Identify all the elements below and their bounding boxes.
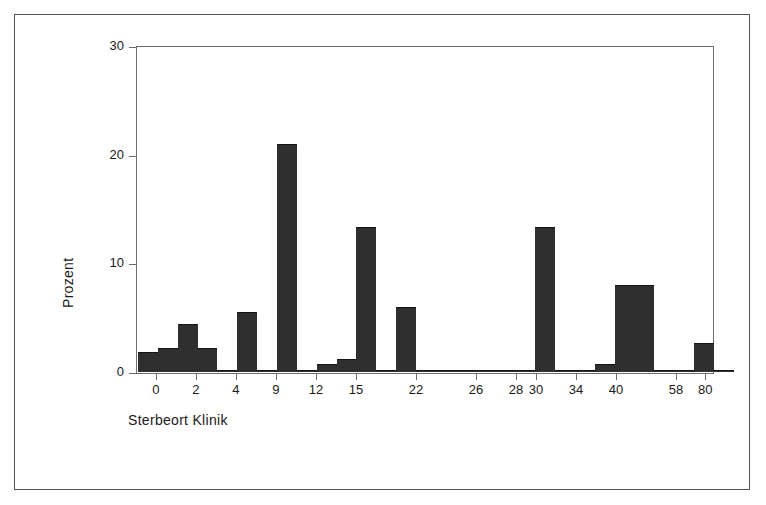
bar xyxy=(615,285,635,372)
x-axis-tick-label: 80 xyxy=(698,382,712,397)
y-axis-title: Prozent xyxy=(60,258,76,308)
x-axis-tick-label: 28 xyxy=(509,382,523,397)
x-axis-tick-mark xyxy=(196,374,197,380)
y-axis-tick-label: 30 xyxy=(110,38,124,54)
bar xyxy=(515,370,535,372)
bar xyxy=(178,324,198,372)
x-axis-tick-mark xyxy=(536,374,537,380)
x-axis-tick-mark xyxy=(356,374,357,380)
x-axis-tick-mark xyxy=(236,374,237,380)
x-axis-tick-label: 22 xyxy=(409,382,423,397)
x-axis-tick-label: 9 xyxy=(272,382,279,397)
x-axis-tick-mark xyxy=(676,374,677,380)
bar xyxy=(635,285,655,372)
bar xyxy=(217,370,237,372)
bar xyxy=(436,370,456,372)
x-axis-tick-mark xyxy=(416,374,417,380)
x-axis-tick-mark xyxy=(476,374,477,380)
x-axis-tick-mark xyxy=(705,374,706,380)
x-axis-tick-label: 15 xyxy=(349,382,363,397)
x-axis-tick-label: 4 xyxy=(232,382,239,397)
bar xyxy=(297,370,317,372)
x-axis-tick-mark xyxy=(516,374,517,380)
bar xyxy=(476,370,496,372)
y-axis-tick-label: 0 xyxy=(117,364,124,380)
y-axis-tick-mark xyxy=(129,156,136,157)
x-axis-tick-mark xyxy=(276,374,277,380)
bar xyxy=(575,370,595,372)
bar xyxy=(456,370,476,372)
x-axis-title: Sterbeort Klinik xyxy=(128,412,228,428)
bar xyxy=(694,343,714,372)
x-axis-tick-mark xyxy=(156,374,157,380)
bar xyxy=(198,348,218,372)
bar xyxy=(495,370,515,372)
x-axis: 024912152226283034405880 xyxy=(136,374,714,414)
bar xyxy=(416,370,436,372)
bar xyxy=(277,144,297,372)
y-axis-tick-label: 10 xyxy=(110,255,124,271)
x-axis-tick-label: 26 xyxy=(469,382,483,397)
bar xyxy=(376,370,396,372)
bar xyxy=(674,370,694,372)
bar xyxy=(237,312,257,372)
bar xyxy=(138,352,158,372)
x-axis-tick-mark xyxy=(616,374,617,380)
x-axis-tick-label: 30 xyxy=(529,382,543,397)
bar xyxy=(317,364,337,372)
x-axis-tick-mark xyxy=(576,374,577,380)
bars-layer xyxy=(138,48,712,372)
bar xyxy=(356,227,376,372)
x-axis-tick-label: 12 xyxy=(309,382,323,397)
x-axis-tick-mark xyxy=(316,374,317,380)
bar xyxy=(158,348,178,372)
y-axis-tick-mark xyxy=(129,373,136,374)
y-axis-tick-mark xyxy=(129,264,136,265)
bar xyxy=(337,359,357,372)
x-axis-tick-label: 2 xyxy=(192,382,199,397)
bar xyxy=(595,364,615,372)
x-axis-tick-label: 34 xyxy=(569,382,583,397)
x-axis-tick-label: 58 xyxy=(669,382,683,397)
bar xyxy=(535,227,555,372)
bar xyxy=(396,307,416,372)
plot-area xyxy=(136,46,714,374)
x-axis-tick-label: 0 xyxy=(152,382,159,397)
y-axis: 0102030 xyxy=(0,0,136,505)
bar xyxy=(555,370,575,372)
y-axis-tick-label: 20 xyxy=(110,147,124,163)
x-axis-tick-label: 40 xyxy=(609,382,623,397)
bar xyxy=(257,370,277,372)
y-axis-tick-mark xyxy=(129,47,136,48)
bar xyxy=(654,370,674,372)
bar xyxy=(714,370,734,372)
